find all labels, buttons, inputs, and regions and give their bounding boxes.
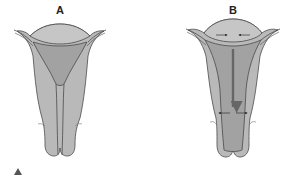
uterus-a bbox=[14, 24, 106, 156]
uterus-b-fundus bbox=[204, 19, 262, 42]
uterus-b bbox=[186, 19, 280, 157]
diagram-canvas bbox=[0, 0, 292, 177]
triangle-icon bbox=[14, 168, 22, 175]
